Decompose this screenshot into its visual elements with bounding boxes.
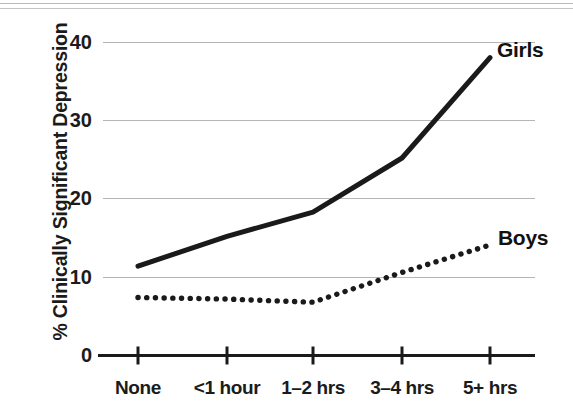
series-label-boys: Boys — [498, 226, 548, 250]
x-axis-group — [98, 347, 535, 365]
x-tick-label-lt1hr: <1 hour — [194, 377, 260, 399]
x-tick-label-5plus: 5+ hrs — [463, 377, 517, 399]
series-line-boys — [138, 245, 490, 302]
x-tick-label-1to2: 1–2 hrs — [281, 377, 345, 399]
plot-area — [0, 0, 573, 418]
chart-figure: % Clinically Significant Depression 40 3… — [0, 0, 573, 418]
series-line-girls — [138, 58, 490, 266]
x-axis-tick-labels: None <1 hour 1–2 hrs 3–4 hrs 5+ hrs — [0, 377, 573, 407]
x-tick-label-none: None — [115, 377, 161, 399]
series-label-girls: Girls — [497, 38, 543, 62]
x-tick-label-3to4: 3–4 hrs — [370, 377, 434, 399]
